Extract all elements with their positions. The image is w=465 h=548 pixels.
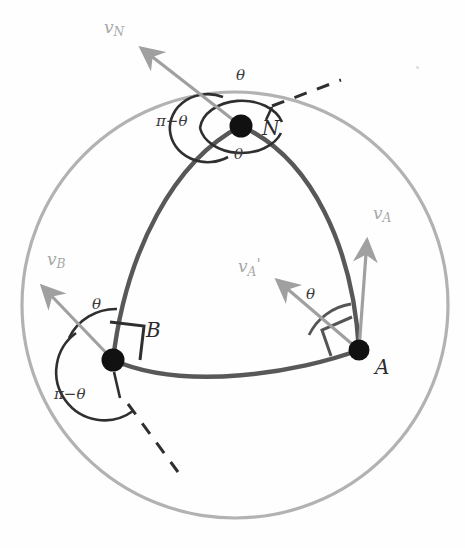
vertex-dot-B xyxy=(102,349,125,372)
label-A: A xyxy=(375,355,389,379)
label-pi-minus-theta-N: π−θ xyxy=(156,112,187,130)
vertex-dot-A xyxy=(349,340,370,361)
label-v-B-sub: B xyxy=(57,257,66,271)
label-v-B-base: v xyxy=(47,249,57,269)
label-v-A-sub: A xyxy=(383,211,392,225)
label-v-A-prime-base: v xyxy=(238,256,248,276)
label-theta-A: θ xyxy=(306,285,315,303)
vector-v-A xyxy=(359,240,367,350)
figure-canvas: N B A vN vA vA' vB θ θ π−θ θ π−θ θ xyxy=(0,0,465,548)
angle-arc-pi-minus-theta-B xyxy=(56,333,133,420)
label-v-A: vA xyxy=(373,203,391,225)
label-theta-N-bottom: θ xyxy=(234,145,243,163)
label-v-N: vN xyxy=(104,17,124,39)
label-B: B xyxy=(146,318,161,342)
label-v-A-prime-mark: ' xyxy=(256,255,260,273)
label-theta-B: θ xyxy=(92,295,101,313)
angle-tick-B-lower xyxy=(114,372,120,398)
label-theta-N-top: θ xyxy=(236,66,245,84)
label-v-A-prime: vA' xyxy=(238,255,261,279)
vector-v-B xyxy=(42,286,113,360)
label-N: N xyxy=(262,116,280,140)
dashed-line-from-N xyxy=(272,80,341,106)
label-v-N-base: v xyxy=(104,17,114,37)
arc-B-A xyxy=(113,350,359,377)
arc-N-A xyxy=(241,126,359,350)
label-pi-minus-theta-B: π−θ xyxy=(54,385,85,403)
label-v-B: vB xyxy=(47,249,66,271)
dashed-line-from-B xyxy=(128,404,178,472)
scan-artifact-speck xyxy=(416,66,419,69)
label-v-A-base: v xyxy=(373,203,383,223)
vector-v-A-prime xyxy=(277,280,359,350)
diagram-svg xyxy=(0,0,465,548)
vertex-dot-N xyxy=(230,115,253,138)
label-v-N-sub: N xyxy=(114,25,125,39)
